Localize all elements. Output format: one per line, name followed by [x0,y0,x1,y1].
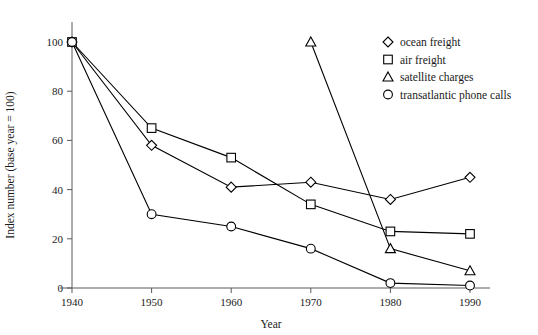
x-tick-label: 1970 [300,296,323,308]
marker-diamond [226,182,236,192]
legend-marker-square [384,55,393,64]
marker-square [466,230,475,239]
x-axis-ticks: 194019501960197019801990 [61,288,482,308]
marker-circle [466,281,475,290]
marker-diamond [465,172,475,182]
marker-square [227,153,236,162]
series-line [72,42,470,199]
marker-circle [227,222,236,231]
y-axis-title: Index number (base year = 100) [4,91,17,238]
x-tick-label: 1990 [459,296,482,308]
line-chart: 020406080100 Index number (base year = 1… [0,0,538,335]
x-tick-label: 1960 [220,296,243,308]
y-tick-label: 60 [52,134,64,146]
marker-diamond [306,177,316,187]
y-axis: 020406080100 Index number (base year = 1… [4,22,72,294]
x-tick-label: 1980 [379,296,402,308]
series-air-freight [68,38,475,238]
marker-circle [68,38,77,47]
legend-item-satellite-charges[interactable]: satellite charges [383,71,474,84]
legend-item-ocean-freight[interactable]: ocean freight [383,36,461,49]
marker-circle [306,244,315,253]
marker-triangle [385,244,395,253]
marker-square [307,200,316,209]
marker-square [386,227,395,236]
x-axis: 194019501960197019801990 Year [60,288,490,330]
legend-label: transatlantic phone calls [400,89,512,102]
y-tick-label: 100 [47,36,64,48]
chart-canvas: 020406080100 Index number (base year = 1… [0,0,538,335]
x-axis-title: Year [260,318,281,330]
legend-marker-triangle [383,72,393,81]
legend-label: ocean freight [400,36,461,49]
legend-label: air freight [400,54,446,67]
marker-circle [147,210,156,219]
x-tick-label: 1950 [141,296,164,308]
y-tick-label: 80 [52,85,64,97]
marker-circle [386,279,395,288]
y-tick-label: 40 [52,184,64,196]
marker-diamond [385,194,395,204]
y-axis-ticks: 020406080100 [47,36,73,294]
legend-item-air-freight[interactable]: air freight [384,54,447,67]
marker-diamond [147,140,157,150]
legend-marker-diamond [383,37,393,47]
legend-marker-circle [384,90,393,99]
marker-square [147,124,156,133]
x-tick-label: 1940 [61,296,84,308]
y-tick-label: 20 [52,233,64,245]
chart-legend: ocean freightair freightsatellite charge… [383,36,512,102]
legend-label: satellite charges [400,71,474,84]
legend-item-transatlantic-phone-calls[interactable]: transatlantic phone calls [384,89,512,102]
marker-triangle [306,37,316,46]
